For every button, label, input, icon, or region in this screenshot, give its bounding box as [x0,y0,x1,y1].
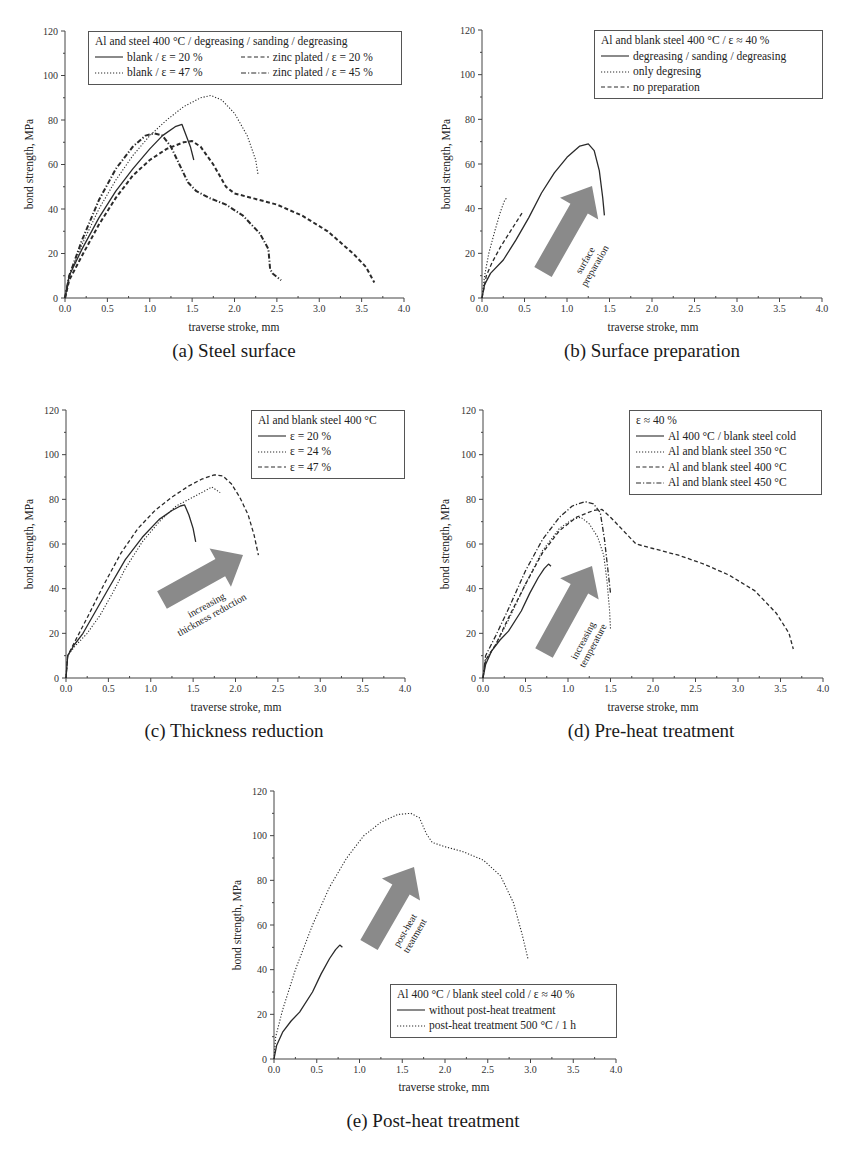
legend-title: Al 400 °C / blank steel cold / ε ≈ 40 % [397,987,610,1003]
chart-panel-e: post-heattreatment0.00.51.01.52.02.53.03… [0,0,849,1153]
legend-line-swatch-icon [397,1006,425,1014]
x-tick-label: 4.0 [610,1064,623,1075]
x-tick-label: 3.0 [524,1064,537,1075]
x-tick-label: 1.5 [396,1064,409,1075]
y-axis-label-e: bond strength, MPa [231,880,243,970]
x-tick-label: 2.0 [439,1064,452,1075]
y-tick-label: 80 [257,875,267,886]
y-tick-label: 0 [262,1054,267,1065]
y-tick-label: 100 [252,830,267,841]
legend-label: without post-heat treatment [429,1003,555,1019]
x-tick-label: 3.5 [567,1064,580,1075]
y-tick-label: 20 [257,1009,267,1020]
caption-e: (e) Post-heat treatment [346,1110,519,1132]
legend-label: post-heat treatment 500 °C / 1 h [429,1018,576,1034]
x-axis-label-e: traverse stroke, mm [398,1081,489,1093]
y-tick-label: 120 [252,786,267,797]
legend-entry: without post-heat treatment [397,1003,610,1019]
x-tick-label: 0.5 [311,1064,324,1075]
x-tick-label: 2.5 [482,1064,495,1075]
series-line-0 [274,945,342,1059]
legend-line-swatch-icon [397,1022,425,1030]
x-tick-label: 0.0 [268,1064,281,1075]
annotation-text: post-heattreatment [391,911,429,955]
legend-entry: post-heat treatment 500 °C / 1 h [397,1018,610,1034]
x-tick-label: 1.0 [353,1064,366,1075]
y-tick-label: 40 [257,964,267,975]
y-tick-label: 60 [257,920,267,931]
chart-svg-e: post-heattreatment0.00.51.01.52.02.53.03… [0,0,849,1153]
legend-e: Al 400 °C / blank steel cold / ε ≈ 40 %w… [390,984,617,1038]
